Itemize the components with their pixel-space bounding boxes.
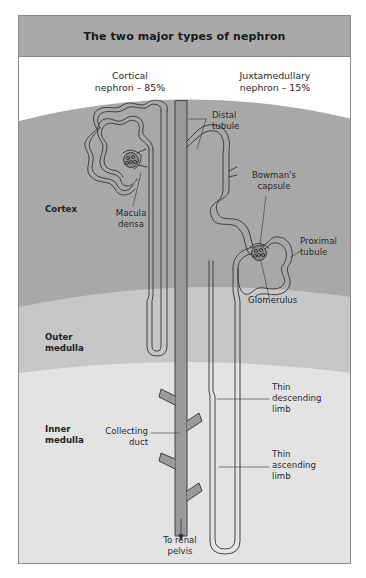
cortex-label: Cortex [45, 204, 77, 215]
thin-ascending-limb-label: Thin ascending limb [272, 449, 316, 482]
collecting-duct [175, 101, 187, 536]
glomerulus-label: Glomerulus [248, 295, 297, 306]
macula-densa-label: Macula densa [106, 208, 156, 230]
renal-pelvis-label: To renal pelvis [150, 535, 210, 557]
title-bar: The two major types of nephron [19, 16, 350, 57]
bowmans-capsule-label: Bowman's capsule [246, 170, 302, 192]
diagram-title: The two major types of nephron [83, 30, 285, 43]
inner-medulla-label: Inner medulla [45, 424, 84, 446]
collecting-duct-label: Collecting duct [100, 426, 148, 448]
proximal-tubule-label: Proximal tubule [300, 236, 337, 258]
outer-medulla-label: Outer medulla [45, 332, 84, 354]
thin-descending-limb-label: Thin descending limb [272, 382, 321, 415]
cortical-nephron-header: Cortical nephron – 85% [80, 70, 180, 94]
distal-tubule-label: Distal tubule [212, 110, 239, 132]
juxtamedullary-nephron-header: Juxtamedullary nephron – 15% [225, 70, 325, 94]
